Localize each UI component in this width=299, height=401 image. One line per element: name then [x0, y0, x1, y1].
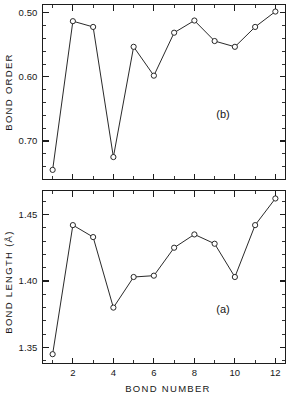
- panel-b-data-point: [192, 18, 197, 23]
- panel-b-ytick-label: 0.50: [19, 7, 38, 18]
- panel-a-y-ticks: [43, 201, 286, 361]
- panel-a-xtick-label: 6: [151, 367, 156, 378]
- panel-b-axes: [43, 5, 286, 180]
- panel-a-data-point: [232, 274, 237, 279]
- panel-b-data-point: [253, 24, 258, 29]
- panel-b-series-line: [53, 12, 276, 170]
- panel-a: 1.351.401.45 24681012 (a) BOND LENGTH (Å…: [3, 191, 286, 395]
- panel-a-data-point: [131, 274, 136, 279]
- panel-b-data-point: [232, 44, 237, 49]
- panel-b-data-point: [212, 38, 217, 43]
- panel-b-data-point: [131, 44, 136, 49]
- panel-b-ytick-label: 0.60: [19, 71, 38, 82]
- panel-a-xtick-label: 2: [70, 367, 75, 378]
- panel-a-data-point: [253, 223, 258, 228]
- panel-a-series-line: [53, 198, 276, 354]
- panel-b-markers: [50, 9, 278, 173]
- panel-a-data-point: [111, 305, 116, 310]
- panel-a-y-ticklabels: 1.351.401.45: [19, 209, 38, 353]
- panel-a-xtick-label: 12: [270, 367, 281, 378]
- panel-a-data-point: [212, 241, 217, 246]
- panel-a-ytick-label: 1.35: [19, 342, 38, 353]
- panel-a-xtick-label: 4: [111, 367, 116, 378]
- panel-b-ytick-label: 0.70: [19, 135, 38, 146]
- x-axis-label: BOND NUMBER: [125, 383, 211, 394]
- panel-a-data-point: [192, 232, 197, 237]
- panel-a-data-point: [151, 273, 156, 278]
- panel-b-y-ticks: [43, 13, 286, 180]
- panel-a-ylabel: BOND LENGTH (Å): [3, 230, 14, 333]
- figure-container: 0.500.600.70 (b) BOND ORDER 1.351.401.45…: [0, 0, 299, 401]
- panel-b: 0.500.600.70 (b) BOND ORDER: [3, 5, 286, 180]
- panel-b-data-point: [91, 24, 96, 29]
- panel-a-data-point: [273, 196, 278, 201]
- panel-b-data-point: [172, 30, 177, 35]
- panel-a-xtick-label: 8: [192, 367, 197, 378]
- panel-a-markers: [50, 196, 278, 357]
- panel-b-data-point: [273, 9, 278, 14]
- panel-b-data-point: [70, 19, 75, 24]
- panel-a-x-ticks: [53, 191, 276, 364]
- panel-a-xtick-label: 10: [229, 367, 240, 378]
- panel-b-data-point: [50, 167, 55, 172]
- panel-a-data-point: [70, 223, 75, 228]
- panel-b-data-point: [111, 154, 116, 159]
- panel-a-axes: [43, 191, 286, 364]
- panel-a-tag: (a): [216, 303, 229, 315]
- panel-b-data-point: [151, 73, 156, 78]
- chart-canvas: 0.500.600.70 (b) BOND ORDER 1.351.401.45…: [0, 0, 299, 401]
- panel-b-y-ticklabels: 0.500.600.70: [19, 7, 38, 146]
- panel-a-x-ticklabels: 24681012: [70, 367, 281, 378]
- panel-a-data-point: [172, 245, 177, 250]
- panel-a-ytick-label: 1.40: [19, 275, 38, 286]
- panel-b-x-ticks: [53, 5, 276, 180]
- panel-b-tag: (b): [216, 108, 229, 120]
- panel-b-ylabel: BOND ORDER: [3, 53, 14, 130]
- panel-a-data-point: [91, 234, 96, 239]
- panel-a-data-point: [50, 352, 55, 357]
- panel-a-ytick-label: 1.45: [19, 209, 38, 220]
